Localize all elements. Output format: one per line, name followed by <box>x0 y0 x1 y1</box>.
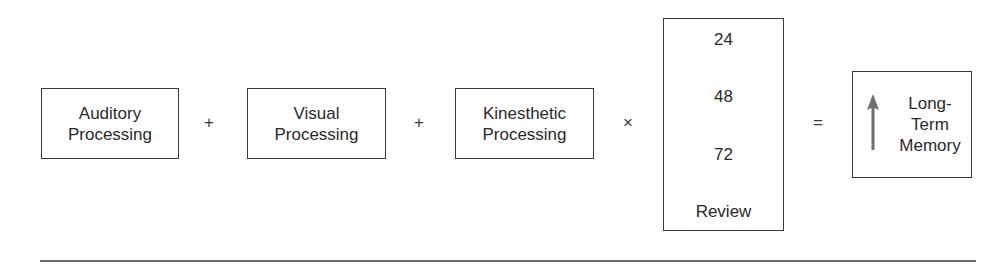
visual-line1: Visual <box>294 103 340 124</box>
auditory-line1: Auditory <box>79 103 141 124</box>
bottom-divider <box>40 260 976 262</box>
kinesthetic-line2: Processing <box>482 124 566 145</box>
review-value-48: 48 <box>714 86 733 107</box>
visual-line2: Processing <box>274 124 358 145</box>
memory-line1: Long- <box>908 93 951 114</box>
review-box: 24 48 72 Review <box>663 18 784 231</box>
review-label: Review <box>696 201 752 222</box>
long-term-memory-box: Long- Term Memory <box>852 71 972 178</box>
plus-operator-2: + <box>409 113 429 133</box>
review-value-24: 24 <box>714 29 733 50</box>
kinesthetic-processing-box: Kinesthetic Processing <box>455 88 594 159</box>
memory-line2: Term <box>911 114 949 135</box>
auditory-line2: Processing <box>68 124 152 145</box>
memory-line3: Memory <box>899 135 960 156</box>
up-arrow-icon <box>867 94 879 150</box>
times-operator: × <box>618 113 638 133</box>
plus-operator-1: + <box>199 113 219 133</box>
visual-processing-box: Visual Processing <box>247 88 386 159</box>
auditory-processing-box: Auditory Processing <box>41 88 179 159</box>
ltm-text: Long- Term Memory <box>889 72 971 177</box>
equals-operator: = <box>808 113 828 133</box>
review-value-72: 72 <box>714 144 733 165</box>
kinesthetic-line1: Kinesthetic <box>483 103 566 124</box>
